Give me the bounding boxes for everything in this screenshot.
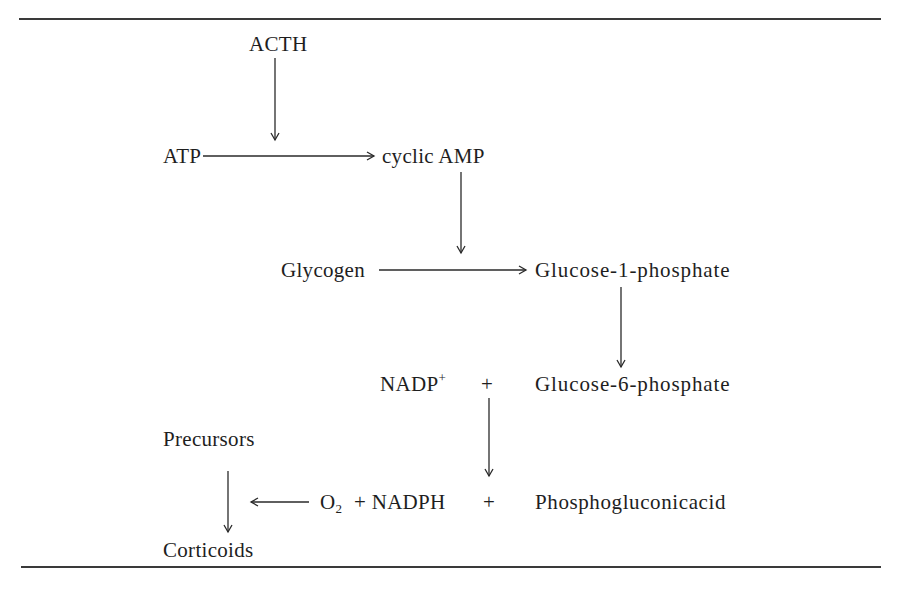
node-cyclic-amp: cyclic AMP (382, 144, 485, 168)
node-o2: O2 (320, 490, 342, 514)
node-glucose-1-phosphate: Glucose-1-phosphate (535, 258, 731, 282)
node-glycogen: Glycogen (281, 258, 365, 282)
arrow-g6p-to-nadph-icon (485, 398, 493, 476)
pathway-arrows (0, 0, 914, 601)
arrow-camp-down-icon (457, 172, 465, 253)
node-phosphogluconic-acid: Phosphogluconicacid (535, 490, 726, 514)
arrow-atp-to-camp-icon (203, 152, 374, 160)
node-acth: ACTH (249, 32, 307, 56)
node-glucose-6-phosphate: Glucose-6-phosphate (535, 372, 731, 396)
arrow-acth-down-icon (271, 58, 279, 140)
arrow-precursors-to-corticoids-icon (224, 471, 232, 532)
nadp-text: NADP (380, 372, 438, 396)
plus-sign-2: + (483, 490, 495, 514)
arrow-nadph-to-corticoids-icon (251, 498, 309, 506)
node-atp: ATP (163, 144, 201, 168)
nadp-charge: + (438, 370, 446, 385)
arrow-g1p-to-g6p-icon (617, 287, 625, 367)
o2-subscript: 2 (335, 501, 342, 516)
node-corticoids: Corticoids (163, 538, 254, 562)
node-nadp: NADP+ (380, 372, 446, 396)
o2-text: O (320, 490, 335, 514)
arrow-glycogen-to-g1p-icon (379, 266, 526, 274)
node-precursors: Precursors (163, 427, 255, 451)
node-nadph: + NADPH (354, 490, 446, 514)
plus-sign-1: + (481, 372, 493, 396)
